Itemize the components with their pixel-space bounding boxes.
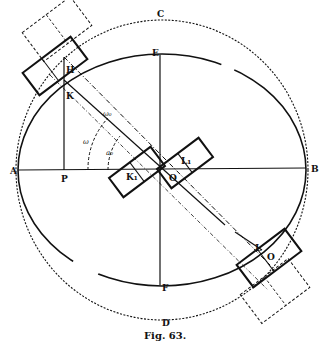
label-K: K bbox=[66, 91, 75, 101]
label-C: C bbox=[157, 9, 164, 19]
angle-arc-w bbox=[88, 118, 108, 170]
label-A: A bbox=[9, 166, 18, 176]
label-L: L bbox=[255, 243, 262, 253]
label-E: E bbox=[152, 48, 159, 58]
label-F: F bbox=[162, 283, 169, 293]
label-D: D bbox=[162, 318, 170, 328]
dashed-rect-bottom bbox=[240, 259, 310, 324]
label-L1: L₁ bbox=[181, 156, 191, 166]
diagonal-dashdot-2 bbox=[50, 75, 268, 290]
label-P: P bbox=[61, 174, 68, 184]
label-w0: ω₀ bbox=[103, 110, 112, 118]
label-O-center: O bbox=[169, 173, 177, 183]
label-K1: K₁ bbox=[126, 172, 138, 182]
figure-caption: Fig. 63. bbox=[144, 330, 186, 341]
label-w: ω bbox=[83, 138, 89, 146]
diagram-canvas: C E H K ω₀ ω a₀ A B P K₁ L₁ O L O F D Fi… bbox=[0, 0, 326, 344]
label-O: O bbox=[267, 252, 275, 262]
label-H: H bbox=[66, 65, 75, 75]
label-B: B bbox=[311, 164, 319, 174]
label-a0: a₀ bbox=[106, 149, 113, 157]
